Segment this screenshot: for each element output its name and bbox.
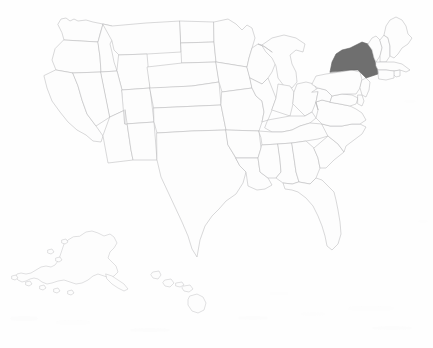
state-indiana[interactable]: [272, 84, 294, 116]
hawaii-oahu: [163, 279, 174, 287]
state-oklahoma[interactable]: [154, 105, 226, 133]
hawaii-kauai: [151, 271, 161, 279]
state-mississippi[interactable]: [258, 144, 281, 178]
inset-hawaii[interactable]: [151, 271, 206, 313]
state-oregon[interactable]: [52, 40, 101, 73]
state-montana[interactable]: [103, 21, 181, 55]
state-connecticut[interactable]: [378, 70, 394, 80]
alaska-island-1: [106, 274, 128, 291]
state-wyoming[interactable]: [117, 54, 150, 90]
hawaii-maui: [182, 285, 193, 292]
state-north-dakota[interactable]: [180, 21, 214, 43]
us-map-container: [0, 0, 433, 348]
alaska-aleutian-5: [68, 290, 74, 295]
alaska-aleutian-4: [54, 288, 60, 293]
state-south-dakota[interactable]: [181, 42, 216, 63]
state-ohio[interactable]: [293, 82, 318, 116]
us-states-map: [0, 0, 433, 348]
state-colorado[interactable]: [122, 88, 154, 124]
state-washington[interactable]: [58, 18, 103, 42]
inset-alaska[interactable]: [12, 231, 128, 295]
hawaii-molokai: [176, 282, 184, 287]
state-florida[interactable]: [283, 178, 341, 250]
state-rhode-island[interactable]: [394, 70, 400, 77]
hawaii-big-island: [188, 294, 206, 313]
state-alaska: [15, 231, 118, 284]
state-delaware[interactable]: [358, 95, 364, 106]
alaska-aleutian-2: [26, 281, 32, 286]
alaska-aleutian-3: [40, 285, 46, 290]
alaska-island-2: [48, 249, 54, 254]
